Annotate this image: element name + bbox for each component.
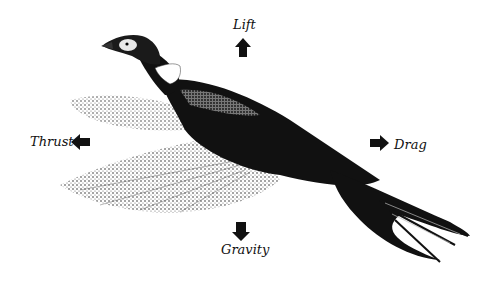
thrust-label: Thrust	[30, 135, 74, 148]
gravity-label: Gravity	[221, 243, 269, 256]
drag-label: Drag	[394, 138, 427, 151]
arrow-right-icon	[369, 135, 389, 151]
four-forces-diagram: Lift Thrust Drag Gravity	[0, 0, 499, 283]
arrow-up-icon	[235, 38, 251, 58]
arrow-left-icon	[71, 134, 91, 150]
lift-label: Lift	[233, 18, 256, 31]
arrow-down-icon	[232, 221, 250, 241]
